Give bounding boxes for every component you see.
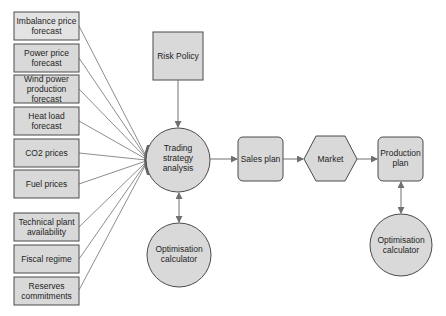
svg-text:Reserves: Reserves: [29, 281, 65, 291]
svg-text:production: production: [27, 84, 67, 94]
input-box-technical: Technical plant availability: [14, 213, 79, 241]
input-box-heat-load: Heat load forecast: [14, 107, 79, 135]
svg-text:CO2 prices: CO2 prices: [25, 148, 68, 158]
svg-text:Optimisation: Optimisation: [155, 244, 203, 254]
input-box-wind-power: Wind power production forecast: [14, 74, 79, 104]
svg-text:Optimisation: Optimisation: [377, 235, 425, 245]
input-boxes: Imbalance price forecast Power price for…: [14, 12, 79, 305]
svg-text:Technical plant: Technical plant: [18, 217, 75, 227]
svg-text:commitments: commitments: [21, 291, 72, 301]
svg-text:Power price: Power price: [24, 48, 69, 58]
svg-text:forecast: forecast: [31, 94, 62, 104]
svg-text:availability: availability: [27, 227, 67, 237]
input-box-imbalance: Imbalance price forecast: [14, 12, 79, 40]
sales-plan-node: Sales plan: [238, 137, 283, 181]
svg-text:forecast: forecast: [31, 121, 62, 131]
svg-text:plan: plan: [392, 158, 408, 168]
input-connectors: [79, 26, 146, 290]
optimisation-calculator-right: Optimisation calculator: [370, 214, 432, 276]
svg-text:Imbalance price: Imbalance price: [16, 16, 76, 26]
svg-text:calculator: calculator: [383, 245, 420, 255]
svg-text:forecast: forecast: [31, 26, 62, 36]
svg-text:analysis: analysis: [163, 163, 194, 173]
trading-strategy-node: Trading strategy analysis: [146, 128, 210, 192]
diagram-canvas: Imbalance price forecast Power price for…: [0, 0, 446, 316]
input-box-fuel: Fuel prices: [14, 170, 79, 198]
svg-text:forecast: forecast: [31, 58, 62, 68]
input-box-fiscal: Fiscal regime: [14, 245, 79, 273]
svg-text:Market: Market: [318, 154, 345, 164]
svg-text:strategy: strategy: [163, 153, 194, 163]
input-box-reserves: Reserves commitments: [14, 277, 79, 305]
market-node: Market: [304, 136, 357, 181]
svg-text:Production: Production: [380, 148, 421, 158]
svg-text:Wind power: Wind power: [24, 74, 69, 84]
svg-text:Sales plan: Sales plan: [241, 154, 281, 164]
production-plan-node: Production plan: [378, 137, 423, 181]
input-box-co2: CO2 prices: [14, 139, 79, 167]
svg-text:Fuel prices: Fuel prices: [26, 179, 68, 189]
svg-text:Trading: Trading: [164, 143, 193, 153]
svg-text:Risk Policy: Risk Policy: [157, 51, 199, 61]
svg-text:calculator: calculator: [161, 254, 198, 264]
optimisation-calculator-left: Optimisation calculator: [147, 223, 211, 287]
risk-policy-box: Risk Policy: [153, 32, 203, 80]
svg-text:Heat load: Heat load: [28, 111, 65, 121]
input-box-power-price: Power price forecast: [14, 44, 79, 72]
svg-text:Fiscal regime: Fiscal regime: [21, 254, 72, 264]
